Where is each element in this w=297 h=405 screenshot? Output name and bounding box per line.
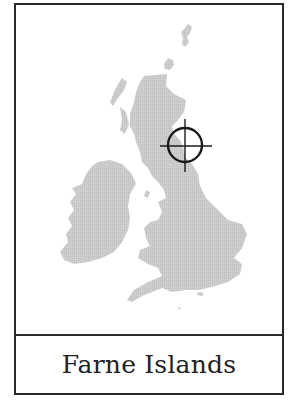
orkney-islands: [164, 58, 174, 70]
outer-hebrides: [110, 78, 127, 106]
land-masses: [60, 24, 247, 310]
scilly-isles: [178, 307, 181, 310]
location-label-panel: Farne Islands: [16, 336, 282, 393]
locator-frame: Farne Islands: [14, 3, 284, 395]
inner-hebrides: [120, 107, 129, 134]
ireland: [60, 160, 136, 264]
map-panel: [16, 5, 282, 336]
great-britain: [127, 74, 247, 302]
isle-of-wight: [197, 292, 204, 296]
isle-of-man: [144, 190, 150, 198]
location-name: Farne Islands: [62, 350, 237, 379]
shetland-islands: [181, 24, 192, 47]
